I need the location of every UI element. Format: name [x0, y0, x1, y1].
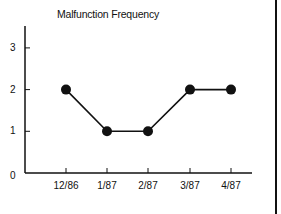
y-tick-label: 2 [10, 84, 16, 95]
x-tick-label: 2/87 [128, 180, 168, 191]
panel-border-line [275, 0, 277, 214]
x-tick-label: 3/87 [170, 180, 210, 191]
data-series-line [66, 90, 231, 132]
x-tick-label: 1/87 [87, 180, 127, 191]
data-point-marker [61, 85, 71, 95]
x-tick-label: 4/87 [211, 180, 251, 191]
y-tick-label: 1 [10, 125, 16, 136]
data-point-marker [143, 126, 153, 136]
y-tick-label: 3 [10, 42, 16, 53]
x-tick-label: 12/86 [46, 180, 86, 191]
y-tick-label: 0 [10, 170, 16, 181]
data-point-marker [226, 85, 236, 95]
data-point-marker [102, 126, 112, 136]
data-point-marker [185, 85, 195, 95]
